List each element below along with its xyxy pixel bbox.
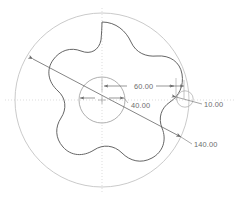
dim-140-leader-tail xyxy=(181,137,192,144)
dimension-10: 10.00 xyxy=(169,80,223,109)
centerline-group xyxy=(5,8,235,194)
dimension-label-40: 40.00 xyxy=(131,101,150,110)
cad-drawing-canvas: 60.00 40.00 10.00 140.00 xyxy=(0,0,240,202)
dimension-140: 140.00 xyxy=(33,59,218,149)
dimension-60: 60.00 xyxy=(102,78,176,100)
dimension-label-140: 140.00 xyxy=(194,140,218,149)
fillet-radius-circle xyxy=(177,91,193,107)
dimension-40: 40.00 xyxy=(80,98,150,110)
dimension-label-60: 60.00 xyxy=(134,82,153,91)
lobed-profile-outline xyxy=(49,22,183,161)
dim-140-diagonal-line xyxy=(33,59,181,137)
cad-svg-root: 60.00 40.00 10.00 140.00 xyxy=(0,0,240,202)
dimension-label-10: 10.00 xyxy=(204,100,223,109)
